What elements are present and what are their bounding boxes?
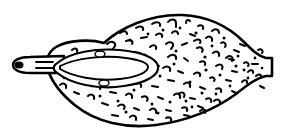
texture-mark xyxy=(110,92,116,93)
texture-mark xyxy=(152,86,158,87)
texture-dot xyxy=(254,57,257,60)
texture-dot xyxy=(219,74,222,77)
texture-mark xyxy=(190,98,195,99)
texture-dot xyxy=(179,27,182,30)
seed-node xyxy=(95,51,105,57)
seed-node xyxy=(99,80,109,86)
texture-dot xyxy=(191,106,194,109)
texture-dot xyxy=(261,67,264,70)
texture-dot xyxy=(169,101,172,104)
texture-dot xyxy=(229,85,232,88)
texture-mark xyxy=(141,37,147,38)
texture-mark xyxy=(184,115,189,116)
texture-dot xyxy=(157,112,160,115)
texture-mark xyxy=(226,80,231,81)
texture-dot xyxy=(189,81,192,84)
texture-dot xyxy=(147,33,150,36)
texture-mark xyxy=(168,80,174,81)
texture-dot xyxy=(128,38,131,41)
fruit-illustration-svg: Fruit longitudinal section line drawing xyxy=(0,0,289,133)
texture-dot xyxy=(117,100,120,103)
texture-mark xyxy=(166,110,171,111)
texture-dot xyxy=(151,103,154,106)
texture-dot xyxy=(99,95,102,98)
texture-dot xyxy=(173,63,176,66)
texture-dot xyxy=(162,29,165,32)
texture-dot xyxy=(211,45,214,48)
texture-dot xyxy=(204,68,207,71)
illustration-canvas: Fruit longitudinal section line drawing xyxy=(0,0,289,133)
texture-dot xyxy=(215,93,218,96)
texture-mark xyxy=(232,71,237,72)
texture-dot xyxy=(243,69,246,72)
texture-dot xyxy=(235,65,238,68)
texture-dot xyxy=(159,75,162,78)
texture-dot xyxy=(175,50,178,53)
texture-mark xyxy=(260,86,264,88)
texture-dot xyxy=(133,89,136,92)
texture-mark xyxy=(112,115,118,116)
texture-dot xyxy=(237,55,240,58)
stem-tip-scar-dot xyxy=(15,61,24,68)
texture-dot xyxy=(223,37,226,40)
texture-dot xyxy=(247,77,250,80)
texture-dot xyxy=(125,111,128,114)
texture-dot xyxy=(201,92,204,95)
texture-dot xyxy=(185,100,188,103)
texture-dot xyxy=(203,55,206,58)
texture-mark xyxy=(258,49,263,53)
texture-dot xyxy=(194,31,197,34)
texture-mark xyxy=(148,119,153,120)
